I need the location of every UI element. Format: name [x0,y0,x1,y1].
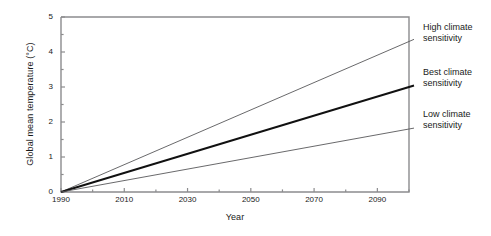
series-label-0: High climatesensitivity [423,22,473,44]
y-tick-label: 1 [35,152,53,161]
series-label-2: Low climatesensitivity [423,109,471,131]
series-label-line-2: sensitivity [423,78,472,89]
x-tick-label: 2050 [231,195,271,204]
series-line-1 [61,85,414,192]
axes-frame [61,17,409,192]
series-label-line-1: Low climate [423,109,471,120]
series-line-0 [61,39,414,192]
x-tick-label: 1990 [41,195,81,204]
series-label-1: Best climatesensitivity [423,67,472,89]
chart-figure: Global mean temperature (°C) Year 012345… [0,0,491,236]
y-axis-title: Global mean temperature (°C) [25,16,35,192]
y-tick-label: 5 [35,12,53,21]
y-tick-label: 2 [35,117,53,126]
series-label-line-2: sensitivity [423,120,471,131]
y-tick-label: 4 [35,47,53,56]
series-label-line-2: sensitivity [423,33,473,44]
x-tick-label: 2090 [357,195,397,204]
x-tick-label: 2030 [168,195,208,204]
x-tick-label: 2070 [294,195,334,204]
y-tick-label: 3 [35,82,53,91]
data-series-lines [61,39,414,192]
x-axis-title: Year [61,212,409,222]
series-label-line-1: Best climate [423,67,472,78]
x-tick-label: 2010 [104,195,144,204]
series-line-2 [61,128,414,192]
series-label-line-1: High climate [423,22,473,33]
